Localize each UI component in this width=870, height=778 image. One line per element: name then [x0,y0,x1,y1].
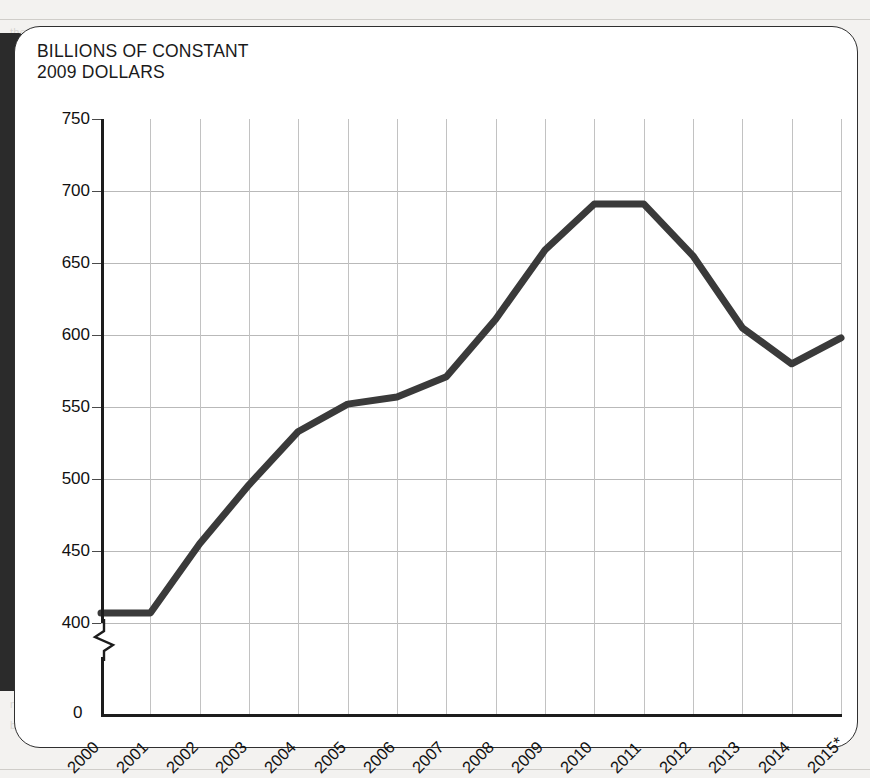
below-break-gridlines [101,623,841,714]
series-line-defense-spending [101,119,841,623]
y-tick-mark-700 [92,191,101,192]
gridline-x-lower-2008 [496,623,497,714]
gridline-x-lower-2015 [841,623,842,714]
y-tick-label-650: 650 [62,253,90,273]
x-tick-label-2002: 2002 [162,738,201,777]
axis-break-icon [91,619,117,661]
chart-card: BILLIONS OF CONSTANT 2009 DOLLARS 400450… [15,27,857,747]
y-axis-spine-lower [101,657,104,715]
y-tick-mark-500 [92,479,101,480]
gridline-x-lower-2009 [545,623,546,714]
x-tick-label-2015: 2015* [803,733,847,777]
y-tick-label-600: 600 [62,325,90,345]
gridline-x-lower-2013 [742,623,743,714]
gridline-x-lower-2005 [348,623,349,714]
y-tick-label-750: 750 [62,109,90,129]
x-tick-label-2000: 2000 [63,738,102,777]
x-tick-label-2007: 2007 [409,738,448,777]
y-tick-label-550: 550 [62,397,90,417]
y-tick-label-400: 400 [62,613,90,633]
y-tick-mark-750 [92,119,101,120]
gridline-x-lower-2004 [298,623,299,714]
x-tick-label-2004: 2004 [261,738,300,777]
y-tick-label-450: 450 [62,541,90,561]
x-tick-label-2011: 2011 [606,739,645,778]
y-axis-zero-label: 0 [73,703,82,723]
y-tick-label-700: 700 [62,181,90,201]
gridline-x-lower-2006 [397,623,398,714]
gridline-x-lower-2007 [446,623,447,714]
y-tick-mark-600 [92,335,101,336]
x-tick-label-2009: 2009 [507,738,546,777]
scan-edge-line-top [0,19,870,20]
x-tick-label-2014: 2014 [754,738,793,777]
gridline-x-lower-2003 [249,623,250,714]
x-tick-label-2001: 2001 [113,738,152,777]
x-axis-tick-labels: 2000200120022003200420052006200720082009… [101,714,841,778]
x-tick-label-2010: 2010 [557,738,596,777]
gridline-x-lower-2011 [644,623,645,714]
x-tick-label-2005: 2005 [310,738,349,777]
gridline-x-lower-2010 [594,623,595,714]
page-background: the defense budgetin constant dollarsspe… [0,0,870,778]
y-tick-mark-450 [92,551,101,552]
y-tick-mark-650 [92,263,101,264]
gridline-x-lower-2012 [693,623,694,714]
x-tick-label-2013: 2013 [705,738,744,777]
chart-title: BILLIONS OF CONSTANT 2009 DOLLARS [37,41,249,83]
y-axis-spine [101,119,104,623]
y-tick-mark-550 [92,407,101,408]
gridline-x-2015 [841,119,842,623]
x-tick-label-2003: 2003 [211,738,250,777]
x-tick-label-2008: 2008 [458,738,497,777]
gridline-x-lower-2001 [150,623,151,714]
y-tick-label-500: 500 [62,469,90,489]
chart-callout-box: BILLIONS OF CONSTANT 2009 DOLLARS 400450… [14,26,858,748]
plot-area: 400450500550600650700750 [101,119,841,623]
gridline-x-lower-2002 [200,623,201,714]
x-tick-label-2006: 2006 [359,738,398,777]
x-tick-label-2012: 2012 [655,738,694,777]
gridline-x-lower-2014 [792,623,793,714]
